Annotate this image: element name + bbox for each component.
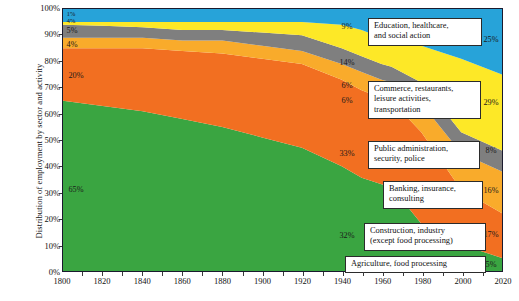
x-tick-mark	[323, 272, 324, 276]
x-tick-mark	[483, 272, 484, 276]
legend-public-admin: Public administration, security, police	[368, 141, 480, 169]
stacked-area-chart: Distribution of employment by sector and…	[0, 0, 519, 301]
x-tick-1920: 1920	[294, 276, 311, 286]
x-tick-mark	[443, 272, 444, 276]
legend-banking: Banking, insurance, consulting	[383, 181, 483, 209]
y-tick-80: 80%	[22, 56, 60, 66]
legend-commerce-line3: transportation	[374, 105, 475, 115]
x-tick-mark	[403, 272, 404, 276]
legend-education-line2: and social action	[374, 31, 476, 41]
x-tick-1820: 1820	[94, 276, 111, 286]
x-tick-mark	[162, 272, 163, 276]
x-tick-1880: 1880	[214, 276, 231, 286]
legend-construction: Construction, industry (except food proc…	[364, 223, 486, 251]
legend-commerce-line1: Commerce, restaurants,	[374, 84, 475, 94]
y-tick-10: 10%	[22, 241, 60, 251]
x-tick-1860: 1860	[174, 276, 191, 286]
legend-education: Education, healthcare, and social action	[368, 18, 482, 46]
x-tick-mark	[122, 272, 123, 276]
x-tick-1980: 1980	[414, 276, 431, 286]
x-tick-mark	[463, 272, 464, 276]
x-tick-2000: 2000	[454, 276, 471, 286]
x-tick-mark	[222, 272, 223, 276]
y-tick-100: 100%	[22, 3, 60, 13]
x-tick-2020: 2020	[495, 276, 512, 286]
legend-construction-line1: Construction, industry	[370, 226, 480, 236]
x-tick-mark	[182, 272, 183, 276]
legend-public-admin-line1: Public administration,	[374, 144, 474, 154]
x-tick-1840: 1840	[134, 276, 151, 286]
y-tick-60: 60%	[22, 109, 60, 119]
legend-commerce-line2: leisure activities,	[374, 94, 475, 104]
x-tick-mark	[243, 272, 244, 276]
legend-education-line1: Education, healthcare,	[374, 21, 476, 31]
legend-agriculture-line1: Agriculture, food processing	[351, 259, 480, 269]
y-tick-70: 70%	[22, 82, 60, 92]
y-axis-ticks: 100% 90% 80% 70% 60% 50% 40% 30% 20% 10%…	[18, 0, 60, 301]
x-tick-mark	[263, 272, 264, 276]
x-tick-mark	[202, 272, 203, 276]
x-tick-1940: 1940	[334, 276, 351, 286]
x-tick-1960: 1960	[374, 276, 391, 286]
x-tick-mark	[343, 272, 344, 276]
legend-agriculture: Agriculture, food processing	[345, 256, 486, 273]
x-tick-mark	[423, 272, 424, 276]
x-tick-mark	[303, 272, 304, 276]
x-tick-mark	[82, 272, 83, 276]
legend-construction-line2: (except food processing)	[370, 236, 480, 246]
y-tick-20: 20%	[22, 214, 60, 224]
x-tick-1900: 1900	[254, 276, 271, 286]
legend-banking-line1: Banking, insurance,	[389, 184, 477, 194]
y-tick-90: 90%	[22, 29, 60, 39]
legend-commerce: Commerce, restaurants, leisure activitie…	[368, 81, 481, 119]
y-tick-30: 30%	[22, 188, 60, 198]
legend-banking-line2: consulting	[389, 194, 477, 204]
legend-public-admin-line2: security, police	[374, 154, 474, 164]
x-tick-mark	[283, 272, 284, 276]
y-tick-40: 40%	[22, 161, 60, 171]
x-tick-mark	[142, 272, 143, 276]
x-tick-mark	[363, 272, 364, 276]
x-tick-mark	[102, 272, 103, 276]
y-tick-50: 50%	[22, 135, 60, 145]
x-tick-1800: 1800	[54, 276, 71, 286]
x-tick-mark	[383, 272, 384, 276]
